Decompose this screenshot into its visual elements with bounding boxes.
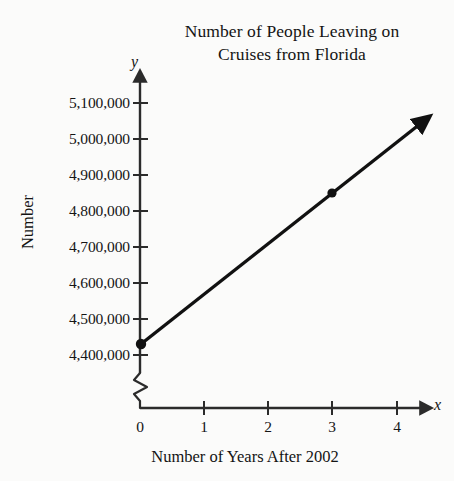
data-point (136, 339, 146, 349)
data-line (141, 124, 420, 344)
y-axis-break-zigzag (134, 373, 147, 408)
data-point (327, 188, 336, 197)
chart-canvas (0, 0, 454, 481)
chart-figure: Number of People Leaving on Cruises from… (0, 0, 454, 481)
